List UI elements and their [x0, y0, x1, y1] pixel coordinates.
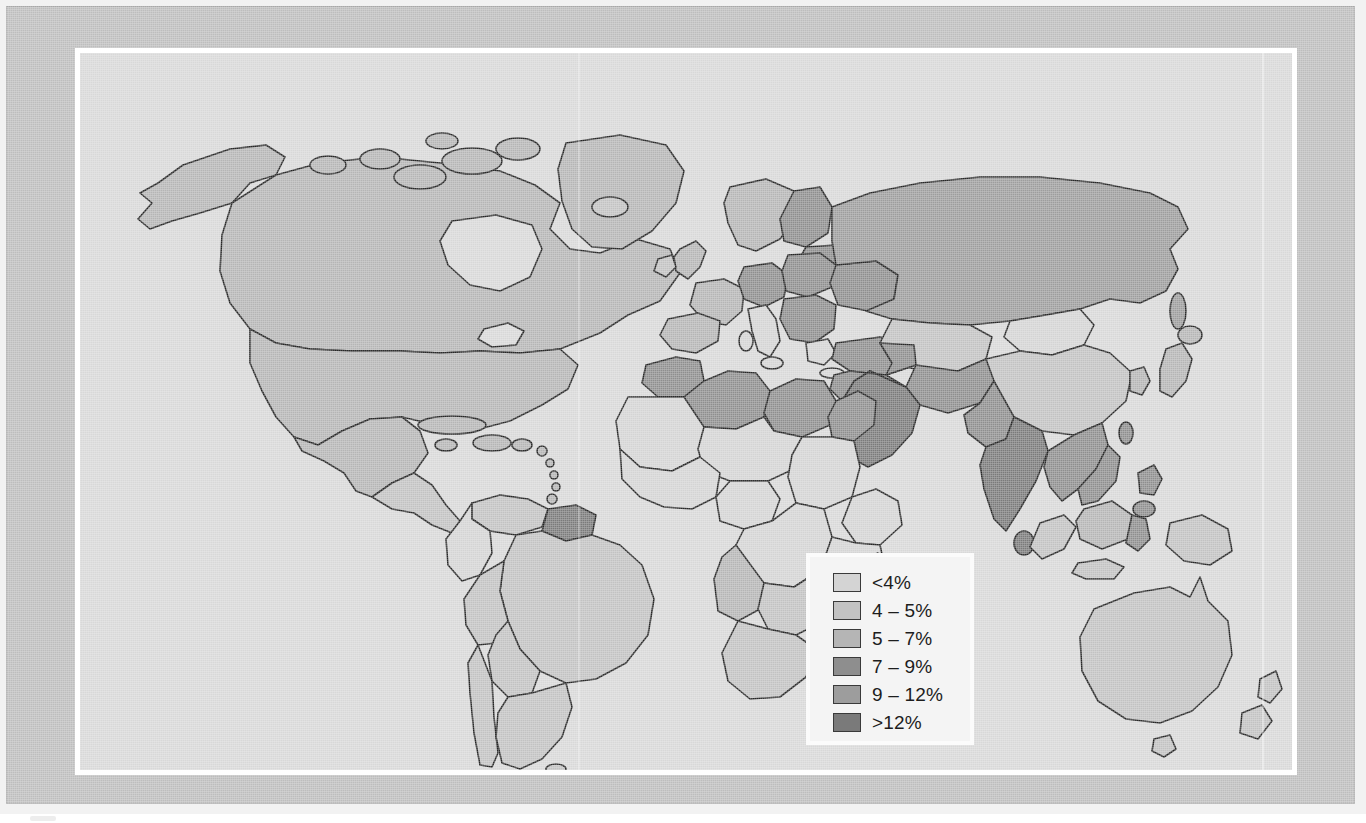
legend-item: <4%	[833, 568, 943, 596]
region-iceland	[592, 197, 628, 217]
region-hokkaido	[1178, 326, 1202, 344]
region-arctic-island-3	[360, 149, 400, 169]
region-sumatra	[1030, 515, 1076, 559]
region-greece	[806, 339, 836, 365]
legend-swatch	[833, 713, 861, 732]
region-philippines	[1138, 465, 1162, 495]
region-japan	[1160, 343, 1192, 397]
region-arctic-island-5	[310, 156, 346, 174]
region-sicily	[761, 357, 783, 369]
region-philippines-south	[1133, 501, 1155, 517]
region-borneo	[1076, 501, 1132, 549]
legend-rows: <4%4 – 5%5 – 7%7 – 9%9 – 12%>12%	[833, 568, 943, 736]
region-balkans	[780, 295, 836, 343]
region-russia	[832, 177, 1188, 325]
legend-label: 9 – 12%	[872, 685, 943, 704]
region-arctic-island-1	[394, 165, 446, 189]
legend-swatch	[833, 657, 861, 676]
region-greenland	[558, 135, 684, 249]
region-sakhalin	[1170, 293, 1186, 329]
legend-label: <4%	[872, 573, 911, 592]
scan-artifact-mark	[30, 816, 56, 821]
legend-label: 4 – 5%	[872, 601, 932, 620]
region-antilles-4	[552, 483, 560, 491]
region-hispaniola	[473, 435, 511, 451]
world-map-svg	[80, 53, 1292, 770]
region-antilles-2	[546, 459, 554, 467]
scan-streak-left	[578, 53, 580, 770]
region-tasmania	[1152, 735, 1176, 757]
region-arctic-island-4	[496, 138, 540, 160]
region-uk	[674, 241, 706, 279]
region-libya	[764, 379, 836, 437]
region-ethiopia-somalia	[842, 489, 902, 545]
region-antilles-1	[537, 446, 547, 456]
legend-swatch	[833, 685, 861, 704]
legend-item: >12%	[833, 708, 943, 736]
legend-item: 9 – 12%	[833, 680, 943, 708]
scan-streak-right	[1262, 53, 1264, 770]
map-field	[80, 53, 1292, 770]
legend-label: 5 – 7%	[872, 629, 932, 648]
region-arctic-island-2	[442, 148, 502, 174]
legend-swatch	[833, 573, 861, 592]
region-new-zealand-south	[1240, 705, 1272, 739]
region-papua-new-guinea	[1166, 515, 1232, 565]
scanned-figure-page: <4%4 – 5%5 – 7%7 – 9%9 – 12%>12%	[0, 0, 1366, 823]
region-germany	[738, 263, 788, 307]
region-arctic-island-6	[426, 133, 458, 149]
region-australia	[1080, 577, 1232, 723]
region-falklands	[546, 764, 566, 770]
legend-item: 4 – 5%	[833, 596, 943, 624]
region-poland	[782, 253, 836, 297]
region-korea	[1130, 367, 1150, 395]
region-taiwan	[1119, 422, 1133, 444]
region-puerto-rico	[512, 439, 532, 451]
region-spain	[660, 313, 720, 353]
region-italy	[748, 305, 780, 357]
legend-swatch	[833, 601, 861, 620]
region-antilles-3	[550, 471, 558, 479]
region-java	[1072, 559, 1124, 579]
region-sudan	[788, 437, 860, 509]
map-legend: <4%4 – 5%5 – 7%7 – 9%9 – 12%>12%	[810, 557, 970, 741]
region-antilles-5	[547, 494, 557, 504]
legend-swatch	[833, 629, 861, 648]
region-cuba	[418, 416, 486, 434]
legend-item: 5 – 7%	[833, 624, 943, 652]
legend-item: 7 – 9%	[833, 652, 943, 680]
region-sardinia	[739, 331, 753, 351]
legend-label: >12%	[872, 713, 922, 732]
region-jamaica	[435, 439, 457, 451]
legend-label: 7 – 9%	[872, 657, 932, 676]
